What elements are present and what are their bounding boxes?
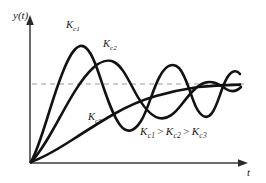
curve-label-kc1-base: K	[66, 19, 73, 30]
inequality-operator-1: >	[155, 125, 166, 137]
inequality-term1-base: K	[140, 125, 148, 137]
inequality-term3-sub-index: 3	[203, 131, 207, 140]
curve-label-kc2-sub-index: 2	[113, 44, 117, 52]
curve-label-kc1-sub-index: 1	[76, 25, 80, 33]
curve-label-kc1: Kc1	[66, 20, 80, 33]
plot-canvas	[0, 0, 266, 183]
gain-inequality-annotation: Kc1>Kc2>Kc3	[140, 126, 207, 140]
curve-label-kc2: Kc2	[103, 39, 117, 52]
curve-label-kc3-sub-index: 3	[98, 117, 102, 125]
curve-label-kc2-base: K	[103, 38, 110, 49]
t-axis-label: t	[247, 167, 250, 178]
response-figure: y(t) t Kc1 Kc2 Kc3 Kc1>Kc2>Kc3	[0, 0, 266, 183]
curve-label-kc3-base: K	[88, 111, 95, 122]
inequality-operator-2: >	[181, 125, 192, 137]
y-axis-label: y(t)	[13, 10, 28, 21]
response-curve-kc3	[31, 85, 240, 162]
curve-label-kc3: Kc3	[88, 112, 102, 125]
